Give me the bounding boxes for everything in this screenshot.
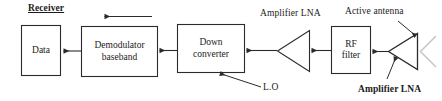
leader-line-local-oscillator <box>220 74 261 88</box>
annotation-amplifier-lna-top: Amplifier LNA <box>260 8 321 19</box>
block-label-downconverter-line1: Down <box>199 37 222 49</box>
block-label-demodulator-line2: baseband <box>102 52 137 64</box>
leader-line-amplifier-lna-bottom <box>387 57 396 79</box>
block-label-demodulator-line1: Demodulator <box>94 40 144 52</box>
amplifier-lna-triangle-first <box>278 31 310 72</box>
annotation-amplifier-lna-bottom: Amplifier LNA <box>358 84 421 95</box>
block-label-rffilter-line2: filter <box>342 50 360 62</box>
block-label-rf-filter: RF filter <box>331 26 371 74</box>
leader-line-active-antenna <box>398 21 416 36</box>
annotation-local-oscillator: L.O <box>263 82 278 93</box>
block-label-data-line1: Data <box>32 45 50 57</box>
receiver-block-diagram: Receiver Data Demodulator baseband Down … <box>0 0 442 101</box>
block-label-down-converter: Down converter <box>177 24 245 73</box>
block-label-data: Data <box>21 25 61 76</box>
active-antenna-element <box>421 37 436 67</box>
diagram-title: Receiver <box>28 3 64 14</box>
block-label-rffilter-line1: RF <box>345 39 357 51</box>
block-label-downconverter-line2: converter <box>193 49 229 61</box>
block-label-demodulator-baseband: Demodulator baseband <box>81 26 158 77</box>
annotation-active-antenna: Active antenna <box>345 6 404 17</box>
